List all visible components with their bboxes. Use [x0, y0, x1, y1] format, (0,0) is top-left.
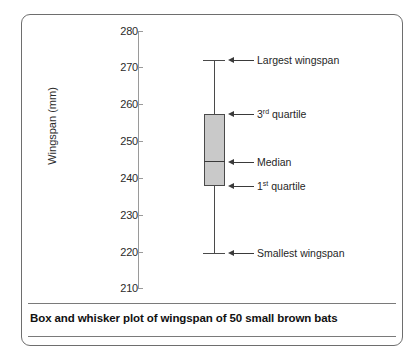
y-tick-250: 250 [96, 136, 138, 147]
annotation-label-q3: 3rd quartile [257, 108, 306, 120]
y-tick-label-210: 210 [104, 283, 138, 294]
annotation-largest-wingspan: Largest wingspan [228, 53, 339, 67]
y-axis-line [138, 31, 139, 289]
q3-word: quartile [269, 108, 306, 120]
annotation-label-q1: 1st quartile [257, 180, 306, 192]
annotation-label-max: Largest wingspan [257, 54, 339, 66]
annotation-third-quartile: 3rd quartile [228, 107, 306, 121]
caption-block: Box and whisker plot of wingspan of 50 s… [28, 303, 396, 337]
y-tick-mark-250 [138, 141, 143, 142]
box-iqr [204, 114, 225, 186]
arrow-left-icon [228, 57, 254, 64]
y-tick-240: 240 [96, 173, 138, 184]
y-axis-title: Wingspan (mm) [46, 66, 58, 186]
annotation-smallest-wingspan: Smallest wingspan [228, 246, 345, 260]
annotation-label-min: Smallest wingspan [257, 247, 345, 259]
y-tick-280: 280 [96, 26, 138, 37]
arrow-left-icon [228, 183, 254, 190]
median-line [204, 161, 225, 162]
y-tick-mark-260 [138, 104, 143, 105]
caption-rule-top [28, 303, 396, 304]
y-tick-260: 260 [96, 99, 138, 110]
y-tick-label-260: 260 [104, 99, 138, 110]
y-tick-210: 210 [96, 283, 138, 294]
y-tick-mark-240 [138, 178, 143, 179]
y-tick-270: 270 [96, 62, 138, 73]
annotation-first-quartile: 1st quartile [228, 179, 306, 193]
y-tick-label-270: 270 [104, 62, 138, 73]
caption-text: Box and whisker plot of wingspan of 50 s… [30, 312, 338, 324]
whisker-cap-min [203, 253, 225, 254]
whisker-line-lower [214, 186, 215, 253]
arrow-left-icon [228, 111, 254, 118]
y-tick-label-280: 280 [104, 26, 138, 37]
y-tick-mark-230 [138, 215, 143, 216]
y-tick-mark-220 [138, 252, 143, 253]
y-tick-label-240: 240 [104, 173, 138, 184]
arrow-left-icon [228, 250, 254, 257]
y-tick-label-230: 230 [104, 210, 138, 221]
caption-rule-bottom [28, 336, 396, 337]
y-tick-label-220: 220 [104, 247, 138, 258]
y-tick-230: 230 [96, 210, 138, 221]
y-tick-220: 220 [96, 247, 138, 258]
arrow-left-icon [228, 159, 254, 166]
y-tick-mark-280 [138, 31, 143, 32]
y-tick-mark-210 [138, 288, 143, 289]
q1-word: quartile [268, 180, 305, 192]
annotation-label-median: Median [257, 156, 291, 168]
annotation-median: Median [228, 155, 291, 169]
y-tick-mark-270 [138, 67, 143, 68]
whisker-line-upper [214, 60, 215, 114]
y-tick-label-250: 250 [104, 136, 138, 147]
